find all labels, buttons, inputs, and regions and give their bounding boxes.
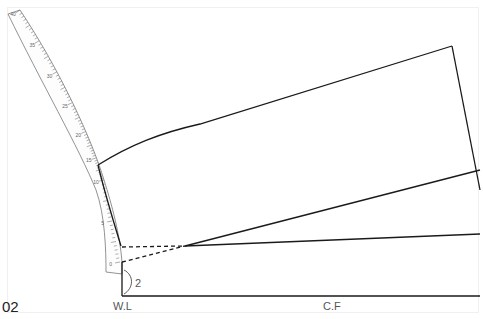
right-edge-line — [452, 46, 480, 190]
measurement-label: 2 — [135, 277, 141, 289]
top-curve-line — [98, 46, 452, 165]
figure-number: 02 — [2, 298, 19, 315]
svg-text:10: 10 — [93, 179, 99, 185]
svg-text:40: 40 — [10, 11, 16, 17]
svg-text:25: 25 — [62, 103, 68, 109]
svg-text:20: 20 — [75, 132, 81, 138]
ruler-outline — [8, 10, 122, 274]
svg-text:15: 15 — [86, 157, 92, 163]
center-front-label: C.F — [323, 300, 341, 312]
lower-diagonal-line — [185, 170, 480, 246]
pattern-lines — [98, 46, 480, 296]
waist-line-label: W.L — [113, 300, 132, 312]
svg-text:30: 30 — [47, 73, 53, 79]
svg-text:5: 5 — [101, 220, 104, 226]
pattern-drafting-diagram: 4035302520151050 — [0, 0, 483, 319]
svg-text:0: 0 — [109, 261, 112, 267]
lower-horizontal-line — [185, 234, 480, 246]
svg-text:35: 35 — [29, 42, 35, 48]
dashed-lower-line — [122, 246, 185, 262]
ruler: 4035302520151050 — [8, 10, 122, 274]
measurement-arc — [124, 270, 132, 294]
dashed-upper-line — [122, 246, 185, 247]
